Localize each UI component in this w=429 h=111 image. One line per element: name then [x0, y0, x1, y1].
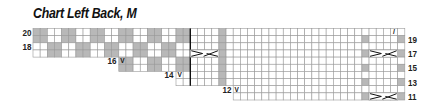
chart-cell [140, 57, 147, 64]
chart-cell [90, 36, 97, 43]
chart-cell [147, 43, 154, 50]
chart-cell [140, 29, 147, 36]
chart-cell [269, 79, 276, 86]
chart-cell [255, 57, 262, 64]
chart-cell [383, 43, 390, 50]
chart-cell [383, 71, 390, 78]
chart-cell [183, 71, 190, 78]
chart-cell [305, 57, 312, 64]
chart-cell [54, 36, 61, 43]
chart-cell [233, 29, 240, 36]
chart-cell [54, 43, 61, 50]
chart-cell [376, 79, 383, 86]
chart-cell [283, 86, 290, 93]
chart-cell [276, 86, 283, 93]
chart-cell [176, 43, 183, 50]
chart-cell [240, 79, 247, 86]
chart-cell [90, 43, 97, 50]
chart-cell [47, 29, 54, 36]
chart-cell [262, 50, 269, 57]
chart-cell [376, 71, 383, 78]
decrease-slash-symbol: / [393, 28, 395, 35]
chart-cell [362, 64, 369, 71]
chart-cell [133, 50, 140, 57]
chart-cell [326, 43, 333, 50]
chart-cell [112, 43, 119, 50]
chart-cell [340, 29, 347, 36]
chart-cell [312, 64, 319, 71]
chart-cell [119, 29, 126, 36]
chart-cell [398, 64, 405, 71]
chart-cell [348, 86, 355, 93]
chart-cell [197, 57, 204, 64]
chart-cell [376, 36, 383, 43]
chart-cell [269, 50, 276, 57]
chart-cell [276, 29, 283, 36]
chart-cell [290, 93, 297, 100]
chart-cell [190, 57, 197, 64]
chart-cell [212, 64, 219, 71]
row-label-13: 13 [408, 78, 417, 87]
chart-cell [40, 29, 47, 36]
chart-cell [312, 43, 319, 50]
chart-cell [340, 93, 347, 100]
chart-cell [183, 64, 190, 71]
chart-cell [290, 43, 297, 50]
chart-cell [398, 93, 405, 100]
chart-cell [212, 43, 219, 50]
chart-cell [133, 64, 140, 71]
chart-cell [90, 29, 97, 36]
chart-cell [340, 43, 347, 50]
chart-cell [326, 64, 333, 71]
chart-cell [326, 36, 333, 43]
slip-stitch-v-symbol: V [177, 71, 182, 78]
chart-cell [355, 71, 362, 78]
chart-cell [283, 50, 290, 57]
chart-cell [40, 36, 47, 43]
chart-cell [133, 36, 140, 43]
chart-cell [155, 29, 162, 36]
chart-cell [369, 36, 376, 43]
chart-cell [305, 79, 312, 86]
chart-cell [119, 64, 126, 71]
chart-cell [362, 50, 369, 57]
chart-cell [240, 71, 247, 78]
chart-cell [398, 43, 405, 50]
chart-cell [362, 29, 369, 36]
chart-cell [40, 43, 47, 50]
chart-cell [105, 43, 112, 50]
chart-cell [212, 29, 219, 36]
chart-cell [262, 64, 269, 71]
chart-cell [298, 43, 305, 50]
chart-cell [326, 29, 333, 36]
chart-cell [248, 71, 255, 78]
chart-cell [169, 43, 176, 50]
chart-cell [283, 57, 290, 64]
chart-cell [133, 57, 140, 64]
chart-cell [112, 36, 119, 43]
chart-cell [319, 64, 326, 71]
chart-cell [212, 57, 219, 64]
chart-cell [226, 36, 233, 43]
chart-cell [276, 64, 283, 71]
chart-cell [340, 71, 347, 78]
chart-cell [348, 79, 355, 86]
chart-cell [362, 57, 369, 64]
chart-cell [226, 57, 233, 64]
chart-cell [383, 29, 390, 36]
chart-cell [240, 29, 247, 36]
chart-cell [212, 36, 219, 43]
chart-cell [305, 50, 312, 57]
chart-cell [233, 64, 240, 71]
chart-cell [369, 64, 376, 71]
chart-cell [340, 50, 347, 57]
chart-cell [105, 36, 112, 43]
chart-cell [240, 36, 247, 43]
chart-cell [398, 71, 405, 78]
row-label-11: 11 [408, 92, 417, 101]
chart-cell [326, 57, 333, 64]
chart-cell [333, 71, 340, 78]
chart-cell [391, 71, 398, 78]
chart-cell [391, 79, 398, 86]
chart-cell [197, 43, 204, 50]
